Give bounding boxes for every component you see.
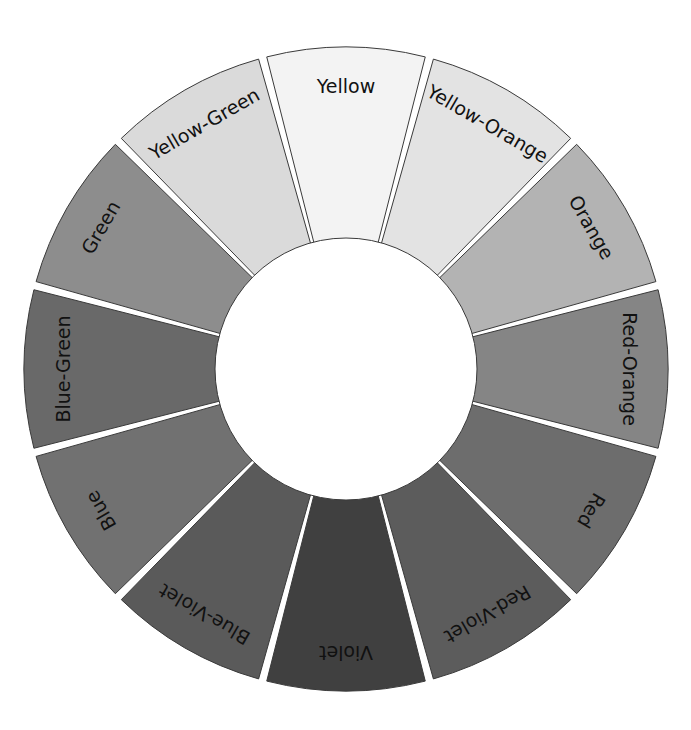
color-wheel: YellowYellow-OrangeOrangeRed-OrangeRedRe… (0, 0, 691, 730)
segment-label-blue-green: Blue-Green (52, 315, 74, 422)
segment-label-red-orange: Red-Orange (619, 312, 641, 426)
segment-label-violet: Violet (319, 642, 373, 664)
segment-label-yellow: Yellow (316, 75, 376, 97)
center-hole (215, 238, 477, 500)
color-wheel-diagram: YellowYellow-OrangeOrangeRed-OrangeRedRe… (0, 0, 691, 730)
